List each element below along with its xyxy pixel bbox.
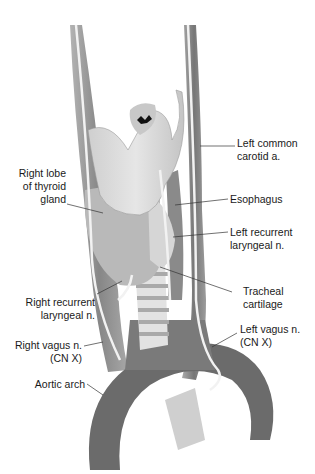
label-right-recurrent-laryngeal: Right recurrent laryngeal n. — [10, 296, 95, 322]
label-esophagus: Esophagus — [230, 193, 283, 206]
label-left-common-carotid: Left common carotid a. — [237, 137, 298, 163]
label-aortic-arch: Aortic arch — [10, 378, 85, 391]
label-right-lobe-thyroid: Right lobe of thyroid gland — [17, 167, 66, 206]
label-tracheal-cartilage: Tracheal cartilage — [243, 285, 283, 311]
label-left-recurrent-laryngeal: Left recurrent laryngeal n. — [230, 226, 292, 252]
label-right-vagus: Right vagus n. (CN X) — [10, 339, 82, 365]
label-left-vagus: Left vagus n. (CN X) — [240, 323, 300, 349]
